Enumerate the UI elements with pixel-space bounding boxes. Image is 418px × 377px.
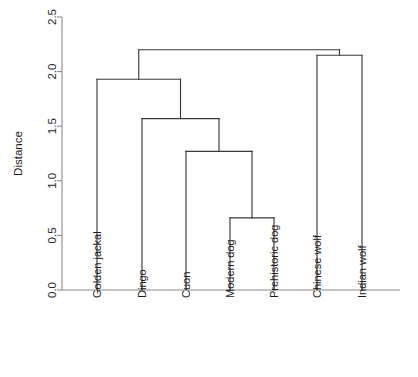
y-tick-label: 0.5 xyxy=(46,227,58,243)
y-tick-label: 0.0 xyxy=(46,282,58,298)
leaf-label-1: Dingo xyxy=(136,269,148,298)
leaf-label-2: Cuon xyxy=(180,272,192,298)
leaf-label-3: Modern dog xyxy=(224,239,236,298)
y-axis xyxy=(57,17,62,290)
leaf-label-5: Chinese wolf xyxy=(311,234,323,298)
y-tick-label: 1.5 xyxy=(46,118,58,134)
dendrogram-figure: 0.00.51.01.52.02.5 Golden jackalDingoCuo… xyxy=(0,0,418,377)
y-axis-title: Distance xyxy=(12,131,24,176)
dendrogram-plot: 0.00.51.01.52.02.5 Golden jackalDingoCuo… xyxy=(0,0,418,377)
y-tick-label: 1.0 xyxy=(46,173,58,189)
leaf-label-6: Indian wolf xyxy=(356,244,368,298)
leaf-label-4: Prehistoric dog xyxy=(268,225,280,298)
y-tick-label: 2.0 xyxy=(46,64,58,80)
y-tick-label: 2.5 xyxy=(46,9,58,25)
y-tick-labels: 0.00.51.01.52.02.5 xyxy=(46,9,58,298)
y-axis-title-text: Distance xyxy=(12,131,24,176)
leaf-label-0: Golden jackal xyxy=(91,231,103,298)
